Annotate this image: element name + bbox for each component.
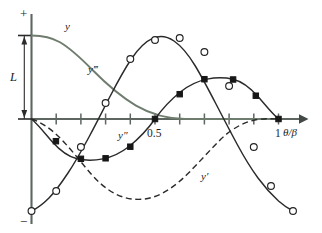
markers-jerk <box>28 35 296 215</box>
data-point-acceleration <box>128 144 133 149</box>
curve-label-y-prime: y′ <box>200 170 209 182</box>
data-point-acceleration <box>53 139 58 144</box>
dimension-bracket-L <box>18 36 32 120</box>
y-axis-negative-sign: − <box>20 214 27 229</box>
figure-root: + − L 0.5 1 θ/β y y‴ y″ y′ <box>0 0 322 233</box>
curve-label-y: y <box>64 20 70 32</box>
dimension-arrowhead-top <box>21 37 27 45</box>
data-point-jerk <box>78 144 85 151</box>
x-tick-label-one: 1 <box>275 127 281 139</box>
data-point-jerk <box>268 183 275 190</box>
derivative-plot: + − L 0.5 1 θ/β y y‴ y″ y′ <box>0 0 322 233</box>
data-point-jerk <box>127 56 134 63</box>
dimension-label-L: L <box>9 70 17 84</box>
data-point-jerk <box>201 49 208 56</box>
curve-displacement-y <box>32 36 279 120</box>
x-axis-title: θ/β <box>283 126 297 138</box>
x-axis-arrowhead <box>299 114 309 124</box>
dimension-arrowhead-bottom <box>21 110 27 118</box>
data-point-jerk <box>102 100 109 107</box>
data-point-acceleration <box>202 77 207 82</box>
data-point-jerk <box>250 144 257 151</box>
data-point-jerk <box>176 35 183 42</box>
data-point-jerk <box>28 208 35 215</box>
data-point-jerk <box>53 188 60 195</box>
data-point-acceleration <box>103 156 108 161</box>
y-axis-positive-sign: + <box>20 6 27 21</box>
data-point-acceleration <box>253 93 258 98</box>
data-point-jerk <box>290 208 297 215</box>
data-point-acceleration <box>152 116 157 121</box>
data-point-jerk <box>152 37 159 44</box>
data-point-jerk <box>226 83 233 90</box>
curve-label-y-double-prime: y″ <box>117 129 128 141</box>
data-point-acceleration <box>230 77 235 82</box>
data-point-acceleration <box>78 156 83 161</box>
x-tick-label-half: 0.5 <box>147 127 162 139</box>
data-point-acceleration <box>177 92 182 97</box>
curve-label-y-triple-prime: y‴ <box>87 63 99 75</box>
data-point-acceleration <box>276 116 281 121</box>
